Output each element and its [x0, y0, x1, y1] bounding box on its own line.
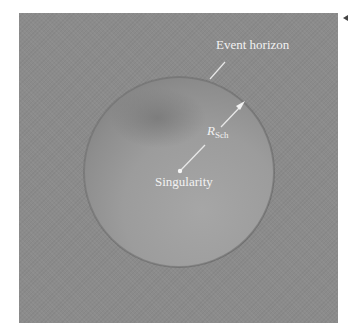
radius-symbol: R	[207, 123, 215, 138]
schwarzschild-radius-label: RSch	[207, 124, 228, 137]
black-hole-diagram	[0, 0, 350, 336]
singularity-dot-icon	[178, 169, 182, 173]
radius-subscript: Sch	[215, 130, 229, 140]
singularity-label: Singularity	[155, 175, 213, 188]
event-horizon-label: Event horizon	[216, 38, 289, 51]
margin-marker-icon	[343, 15, 348, 21]
event-horizon-pointer	[210, 62, 225, 79]
